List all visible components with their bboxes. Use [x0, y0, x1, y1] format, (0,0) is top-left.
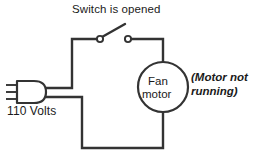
switch-terminal-left [97, 36, 103, 42]
fan-motor-label-line1: Fan [148, 75, 168, 88]
motor-status-annotation-line2: running) [191, 85, 238, 98]
wire-switch-to-motor [129, 39, 163, 62]
wire-hot-line [46, 39, 98, 88]
switch-lever[interactable] [102, 24, 125, 37]
page-title: Switch is opened [72, 3, 161, 16]
switch-open[interactable] [97, 24, 131, 42]
voltage-source-label: 110 Volts [7, 105, 56, 118]
switch-terminal-right [125, 36, 131, 42]
circuit-diagram: Switch is opened 110 Volts Fan motor (Mo… [0, 0, 262, 166]
wall-plug [6, 81, 46, 103]
motor-status-annotation-line1: (Motor not [191, 71, 248, 84]
plug-body-icon [17, 81, 46, 103]
fan-motor-label-line2: motor [142, 88, 171, 101]
plug-prongs-icon [6, 85, 17, 99]
